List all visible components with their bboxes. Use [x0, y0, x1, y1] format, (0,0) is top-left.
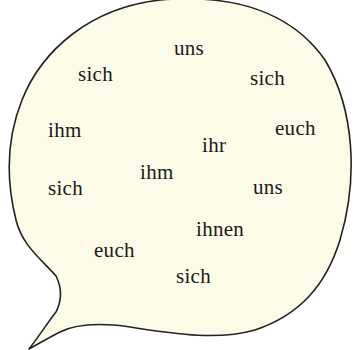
pronoun-word: sich [250, 68, 285, 89]
pronoun-word: euch [94, 240, 135, 261]
pronoun-word: sich [48, 178, 83, 199]
pronoun-word: uns [253, 177, 283, 198]
pronoun-word: ihnen [196, 219, 244, 240]
pronoun-word: sich [176, 266, 211, 287]
pronoun-word: sich [78, 64, 113, 85]
pronoun-word: ihm [140, 162, 174, 183]
pronoun-word: ihm [48, 120, 82, 141]
pronoun-word: ihr [202, 135, 226, 156]
pronoun-word: uns [174, 38, 204, 59]
pronoun-word: euch [275, 118, 316, 139]
speech-bubble-illustration: uns sich sich ihm euch ihr ihm sich uns … [0, 0, 363, 350]
